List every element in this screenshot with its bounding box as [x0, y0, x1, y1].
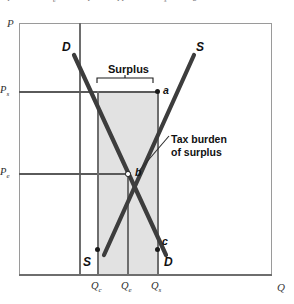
quantity-axis-label: Q: [277, 281, 285, 293]
supply-top-label: S: [196, 40, 204, 54]
quantity-consumed-tick: Qc: [91, 280, 102, 294]
point-b-dot: [125, 171, 131, 177]
figure-root: price is at Pe and the point supported a…: [0, 0, 294, 304]
tax-burden-annotation: Tax burden of surplus: [171, 133, 227, 158]
surplus-brace: [97, 75, 153, 83]
demand-top-label: D: [62, 40, 71, 54]
point-a-dot: [155, 89, 160, 94]
supply-lower-dot: [95, 247, 100, 252]
tax-burden-line-1: Tax burden: [171, 133, 227, 146]
plot-area: a b c D D S S Ps Pe Qc Qe Qs Surplus Tax…: [19, 23, 272, 276]
point-c-dot: [155, 247, 160, 252]
demand-bottom-label: D: [164, 255, 173, 269]
tax-burden-line-2: of surplus: [171, 146, 227, 159]
cut-off-caption: price is at Pe and the point supported a…: [0, 0, 294, 11]
surplus-label: Surplus: [91, 63, 166, 75]
price-support-tick: Ps: [0, 84, 9, 98]
supply-bottom-label: S: [83, 255, 91, 269]
caption-text: price is at Pe and the point supported a…: [8, 0, 228, 3]
point-a-label: a: [163, 84, 169, 96]
price-axis-label: P: [7, 17, 14, 29]
quantity-supplied-tick: Qs: [151, 280, 161, 294]
quantity-equilibrium-tick: Qe: [121, 280, 132, 294]
curves-svg: [19, 23, 272, 276]
point-b-label: b: [135, 166, 141, 178]
price-equilibrium-tick: Pe: [0, 166, 10, 180]
point-c-label: c: [162, 235, 168, 247]
